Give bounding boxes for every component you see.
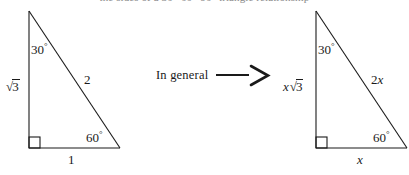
general-angle-30-label: 30° bbox=[318, 43, 335, 56]
radicand-value: 3 bbox=[296, 79, 304, 93]
triangles-vector-layer bbox=[0, 0, 409, 175]
specific-angle-30-label: 30° bbox=[31, 43, 48, 56]
general-hypotenuse-line bbox=[316, 11, 407, 148]
variable-x: x bbox=[378, 72, 384, 87]
degree-symbol: ° bbox=[386, 129, 390, 139]
specific-hypotenuse-label: 2 bbox=[84, 73, 91, 86]
specific-triangle-shape bbox=[29, 11, 120, 148]
specific-hypotenuse-line bbox=[29, 11, 120, 148]
general-vertical-leg-label: x√3 bbox=[283, 79, 303, 93]
general-right-angle-marker bbox=[316, 137, 327, 148]
general-angle-60-label: 60° bbox=[373, 131, 390, 144]
general-triangle-shape bbox=[316, 11, 407, 148]
implies-arrow-shape bbox=[216, 66, 268, 85]
specific-horizontal-leg-label: 1 bbox=[68, 153, 75, 166]
specific-vertical-leg-label: √3 bbox=[5, 79, 20, 93]
degree-symbol: ° bbox=[44, 41, 48, 51]
arrow-head bbox=[251, 66, 268, 85]
in-general-label: In general bbox=[156, 69, 208, 82]
general-hypotenuse-label: 2x bbox=[371, 73, 383, 86]
specific-right-angle-marker bbox=[29, 137, 40, 148]
degree-symbol: ° bbox=[331, 41, 335, 51]
radicand-value: 3 bbox=[12, 79, 20, 93]
degree-symbol: ° bbox=[99, 129, 103, 139]
general-horizontal-leg-label: x bbox=[357, 153, 363, 166]
figure-canvas: the sides of a 30°-60°-90° triangle rela… bbox=[0, 0, 409, 175]
specific-angle-60-label: 60° bbox=[86, 131, 103, 144]
